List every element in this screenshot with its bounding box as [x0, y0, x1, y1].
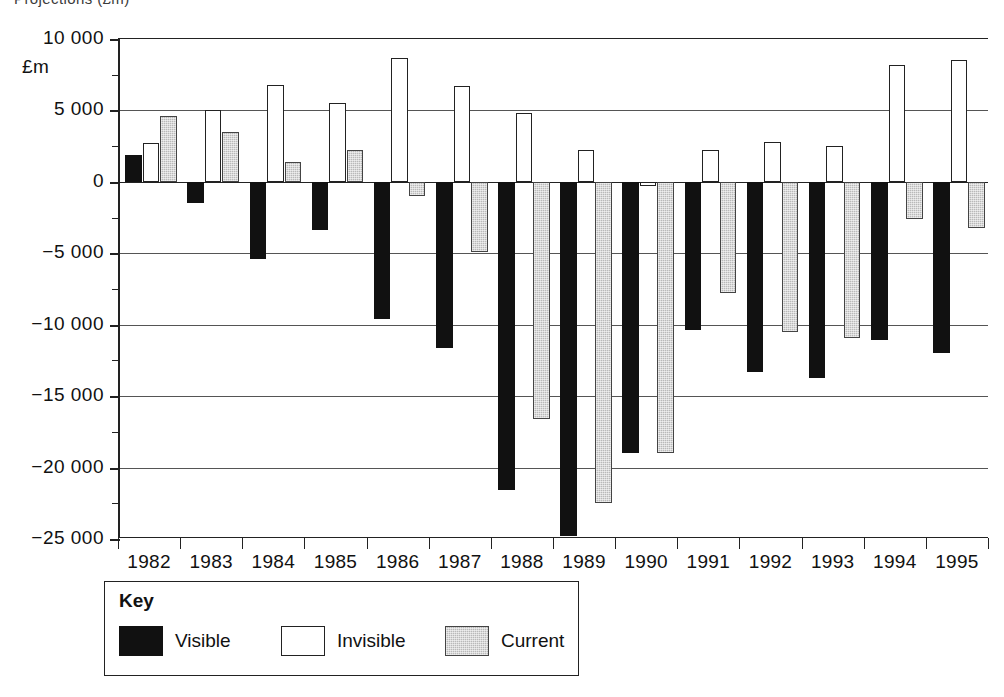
y-axis-minor-tick: [112, 503, 120, 504]
bar-group: [804, 39, 866, 537]
x-axis-tick: [615, 538, 616, 549]
legend-title: Key: [119, 590, 154, 612]
y-axis-tick-label: −5 000: [42, 241, 104, 263]
y-axis-minor-tick: [112, 360, 120, 361]
y-axis-minor-tick: [112, 146, 120, 147]
y-axis-major-tick: [110, 325, 120, 327]
bar-current-1992: [782, 182, 799, 332]
y-axis-minor-tick: [112, 218, 120, 219]
bar-visible-1994: [871, 182, 888, 341]
bar-chart: £m 10 0005 0000−5 000−10 000−15 000−20 0…: [0, 0, 1004, 697]
y-axis-major-tick: [110, 182, 120, 184]
bar-group: [866, 39, 928, 537]
x-axis-tick: [491, 538, 492, 549]
y-axis-tick-label: 5 000: [54, 98, 104, 120]
x-axis: 1982198319841985198619871988198919901991…: [118, 538, 988, 574]
bar-group: [120, 39, 182, 537]
legend-label-invisible: Invisible: [337, 630, 406, 652]
x-axis-label-1988: 1988: [500, 551, 543, 573]
bar-invisible-1993: [826, 146, 843, 182]
bar-invisible-1995: [951, 60, 968, 181]
y-axis-tick-label: −20 000: [31, 456, 104, 478]
x-axis-tick: [802, 538, 803, 549]
bar-current-1993: [844, 182, 861, 338]
y-axis-tick-label: 0: [93, 170, 104, 192]
bar-group: [555, 39, 617, 537]
bar-current-1984: [285, 162, 302, 182]
y-axis-minor-tick: [112, 432, 120, 433]
legend-swatch-invisible: [281, 626, 325, 656]
x-axis-label-1991: 1991: [687, 551, 730, 573]
x-axis-tick: [118, 538, 119, 549]
bar-current-1983: [222, 132, 239, 182]
bar-group: [431, 39, 493, 537]
bar-group: [617, 39, 679, 537]
bar-invisible-1988: [516, 113, 533, 182]
x-axis-label-1990: 1990: [624, 551, 667, 573]
bar-invisible-1992: [764, 142, 781, 182]
x-axis-label-1994: 1994: [873, 551, 916, 573]
legend-swatch-visible: [119, 626, 163, 656]
bar-current-1985: [347, 150, 364, 181]
x-axis-tick: [367, 538, 368, 549]
x-axis-label-1984: 1984: [252, 551, 295, 573]
x-axis-tick: [242, 538, 243, 549]
legend-item-visible[interactable]: Visible: [119, 624, 231, 658]
y-axis-tick-label: −10 000: [31, 313, 104, 335]
x-axis-tick: [304, 538, 305, 549]
bar-group: [306, 39, 368, 537]
y-axis-tick-label: 10 000: [43, 27, 104, 49]
bar-current-1982: [160, 116, 177, 182]
x-axis-label-1993: 1993: [811, 551, 854, 573]
bar-current-1987: [471, 182, 488, 252]
x-axis-tick: [864, 538, 865, 549]
bar-visible-1986: [374, 182, 391, 319]
bar-invisible-1984: [267, 85, 284, 182]
legend-label-visible: Visible: [175, 630, 231, 652]
legend-swatch-current: [445, 626, 489, 656]
bar-visible-1991: [685, 182, 702, 331]
bar-current-1989: [595, 182, 612, 503]
bar-current-1986: [409, 182, 426, 196]
legend-label-current: Current: [501, 630, 564, 652]
bar-current-1995: [968, 182, 985, 228]
y-axis-major-tick: [110, 468, 120, 470]
x-axis-label-1992: 1992: [749, 551, 792, 573]
bar-invisible-1989: [578, 150, 595, 181]
y-axis-tick-label: −15 000: [31, 384, 104, 406]
bar-visible-1993: [809, 182, 826, 378]
y-axis-minor-tick: [112, 289, 120, 290]
bar-visible-1995: [933, 182, 950, 353]
bar-group: [493, 39, 555, 537]
bar-visible-1989: [560, 182, 577, 536]
x-axis-label-1985: 1985: [314, 551, 357, 573]
bar-group: [928, 39, 990, 537]
legend: Key VisibleInvisibleCurrent: [104, 581, 579, 676]
x-axis-label-1987: 1987: [438, 551, 481, 573]
legend-item-invisible[interactable]: Invisible: [281, 624, 406, 658]
x-axis-label-1982: 1982: [127, 551, 170, 573]
bar-visible-1987: [436, 182, 453, 348]
bar-invisible-1990: [640, 182, 657, 186]
bar-visible-1988: [498, 182, 515, 491]
bar-invisible-1991: [702, 150, 719, 181]
x-axis-tick: [429, 538, 430, 549]
x-axis-tick: [677, 538, 678, 549]
y-axis-minor-tick: [112, 75, 120, 76]
x-axis-tick: [926, 538, 927, 549]
y-axis-labels: 10 0005 0000−5 000−10 000−15 000−20 000−…: [0, 38, 112, 538]
x-axis-label-1989: 1989: [562, 551, 605, 573]
x-axis-label-1983: 1983: [189, 551, 232, 573]
legend-item-current[interactable]: Current: [445, 624, 564, 658]
bar-invisible-1994: [889, 65, 906, 182]
y-axis-major-tick: [110, 396, 120, 398]
x-axis-tick: [180, 538, 181, 549]
bar-current-1990: [657, 182, 674, 453]
bar-visible-1983: [187, 182, 204, 203]
bar-visible-1992: [747, 182, 764, 372]
x-axis-tick: [553, 538, 554, 549]
bar-group: [741, 39, 803, 537]
bar-invisible-1985: [329, 103, 346, 182]
y-axis-major-tick: [110, 39, 120, 41]
bar-visible-1985: [312, 182, 329, 231]
